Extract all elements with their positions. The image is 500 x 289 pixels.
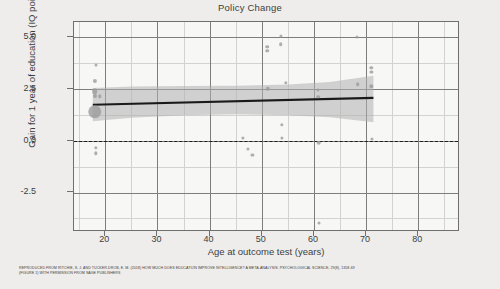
- scatter-point: [356, 82, 360, 86]
- scatter-point: [370, 70, 373, 73]
- scatter-point: [95, 64, 98, 67]
- y-axis-tick-mark: [67, 191, 73, 192]
- scatter-point: [279, 34, 282, 37]
- scatter-point: [370, 66, 373, 69]
- x-axis-tick-mark: [209, 231, 210, 236]
- y-axis-tick-label: -2.5: [0, 186, 36, 196]
- scatter-point: [279, 43, 283, 47]
- x-axis-tick-mark: [313, 231, 314, 236]
- scatter-points: [74, 22, 458, 230]
- scatter-point: [356, 35, 359, 38]
- y-axis-title-line1: Gain for 1 year of education: [26, 30, 37, 147]
- y-axis-tick-mark: [67, 88, 73, 89]
- scatter-point: [94, 146, 97, 149]
- y-axis-tick-mark: [67, 140, 73, 141]
- scatter-point: [316, 140, 321, 145]
- plot-area: [73, 21, 459, 231]
- scatter-point: [98, 95, 101, 98]
- x-axis-tick-mark: [365, 231, 366, 236]
- scatter-point: [241, 136, 244, 139]
- scatter-point: [265, 49, 269, 53]
- scatter-point: [92, 88, 98, 94]
- scatter-point: [93, 79, 97, 83]
- scatter-point: [93, 94, 97, 98]
- scatter-point: [280, 136, 283, 139]
- scatter-point: [265, 45, 269, 49]
- scatter-point: [317, 89, 320, 92]
- scatter-point: [280, 123, 283, 126]
- scatter-point: [316, 95, 320, 99]
- x-axis-tick-mark: [156, 231, 157, 236]
- attribution-caption: REPRODUCED FROM RITCHIE, S. J. AND TUCKE…: [19, 266, 489, 275]
- x-axis-tick-mark: [261, 231, 262, 236]
- scatter-point: [370, 137, 373, 140]
- scatter-point: [370, 85, 373, 88]
- scatter-point: [251, 153, 254, 156]
- scatter-point: [317, 221, 320, 224]
- caption-line-2: (FIGURE 1) WITH PERMISSION FROM SAGE PUB…: [19, 271, 489, 276]
- scatter-point: [284, 81, 287, 84]
- scatter-point: [266, 87, 270, 91]
- x-axis-tick-mark: [417, 231, 418, 236]
- x-axis-tick-mark: [104, 231, 105, 236]
- y-axis-tick-mark: [67, 36, 73, 37]
- chart-container: Policy Change -2.50.02.55.02030405060708…: [0, 0, 500, 289]
- y-axis-title: Gain for 1 year of education (IQ points): [26, 0, 37, 171]
- chart-title: Policy Change: [0, 2, 500, 13]
- scatter-point: [88, 105, 102, 119]
- y-axis-title-line2: (IQ points): [26, 0, 37, 28]
- scatter-point: [246, 148, 249, 151]
- scatter-point: [94, 152, 97, 155]
- x-axis-title: Age at outcome test (years): [73, 246, 459, 257]
